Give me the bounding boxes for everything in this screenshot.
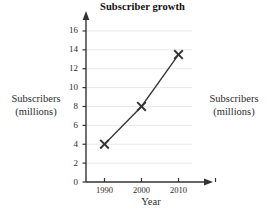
x-tick-label: 2000 bbox=[122, 186, 162, 195]
data-point-marker bbox=[174, 50, 183, 59]
y-tick-label: 4 bbox=[58, 140, 78, 149]
x-tick-label: 2010 bbox=[159, 186, 199, 195]
x-axis-arrow-icon bbox=[204, 179, 213, 186]
x-axis-title: Year bbox=[106, 196, 196, 207]
chart-figure: Subscriber growth Subscribers (millions)… bbox=[0, 0, 270, 215]
x-tick-label: 1990 bbox=[85, 186, 125, 195]
y-tick-label: 2 bbox=[58, 159, 78, 168]
y-tick-label: 10 bbox=[58, 83, 78, 92]
y-tick-label: 14 bbox=[58, 45, 78, 54]
y-axis bbox=[83, 11, 90, 182]
y-tick-label: 0 bbox=[58, 178, 78, 187]
y-tick-label: 12 bbox=[58, 64, 78, 73]
y-tick-label: 6 bbox=[58, 121, 78, 130]
y-tick-label: 8 bbox=[58, 102, 78, 111]
data-series-subscribers bbox=[100, 50, 183, 148]
y-tick-label: 16 bbox=[58, 26, 78, 35]
gridlines bbox=[86, 31, 192, 163]
plot-area bbox=[0, 0, 270, 215]
y-axis-arrow-icon bbox=[83, 11, 90, 20]
